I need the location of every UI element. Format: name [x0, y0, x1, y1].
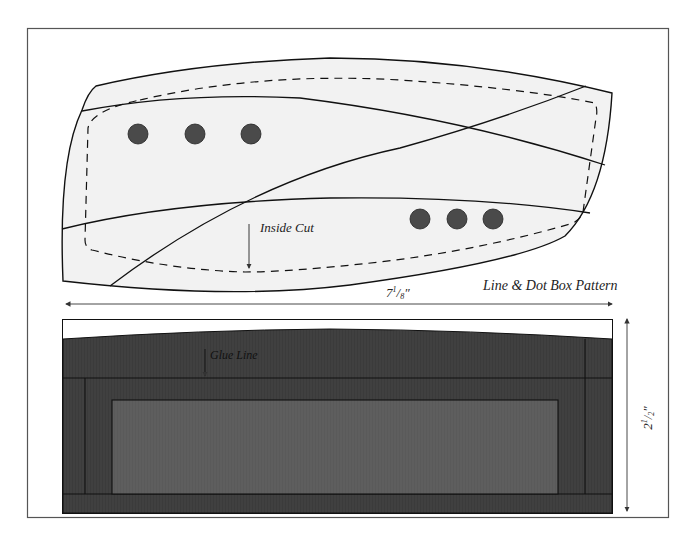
- dot: [410, 209, 430, 229]
- dot: [241, 124, 261, 144]
- glue-line-label: Glue Line: [210, 348, 258, 362]
- width-label: 71/8″: [386, 285, 410, 301]
- pattern-title: Line & Dot Box Pattern: [482, 278, 618, 293]
- side-view-box: Glue Line: [63, 320, 613, 514]
- box-pattern-diagram: Inside Cut Line & Dot Box Pattern 71/8″ …: [0, 0, 696, 554]
- inner-cavity: [112, 400, 558, 494]
- dot: [447, 209, 467, 229]
- dot: [483, 209, 503, 229]
- inside-cut-label: Inside Cut: [259, 220, 314, 235]
- dot: [185, 124, 205, 144]
- dot: [128, 124, 148, 144]
- height-label: 21/2″: [640, 406, 656, 430]
